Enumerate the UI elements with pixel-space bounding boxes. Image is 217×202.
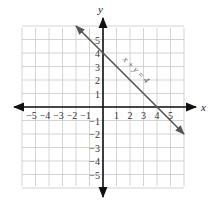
coordinate-plane: x y −5−4−3−2−112345 54321−1−2−3−4−5 x + … (0, 0, 217, 202)
y-tick-label: −5 (89, 170, 100, 181)
x-tick-label: −5 (26, 110, 37, 121)
y-tick-label: −1 (89, 116, 100, 127)
y-tick-label: 5 (95, 35, 100, 46)
y-tick-label: 1 (95, 89, 100, 100)
x-tick-label: 3 (141, 110, 146, 121)
equation-label: x + y = 4 (120, 54, 152, 86)
x-tick-label: −2 (67, 110, 78, 121)
y-axis-label: y (97, 3, 103, 15)
y-tick-label: 3 (95, 62, 100, 73)
x-axis-label: x (200, 101, 206, 113)
x-tick-label: 4 (155, 110, 160, 121)
x-tick-label: −4 (40, 110, 51, 121)
y-tick-label: −4 (89, 156, 100, 167)
x-tick-label: 2 (128, 110, 133, 121)
x-tick-label: 1 (114, 110, 119, 121)
y-tick-label: −3 (89, 143, 100, 154)
y-tick-label: −2 (89, 129, 100, 140)
x-tick-label: −3 (53, 110, 64, 121)
y-tick-label: 2 (95, 75, 100, 86)
